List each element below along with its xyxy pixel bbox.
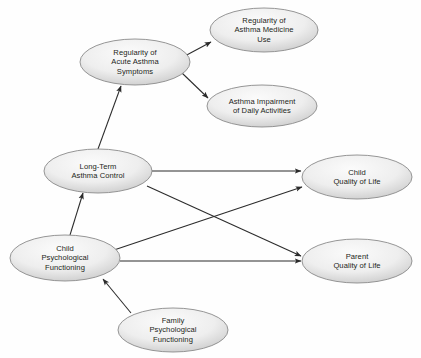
edge-acute-to-impairment [182, 73, 208, 98]
node-child_qol[interactable] [302, 155, 412, 199]
node-parent_qol[interactable] [302, 239, 412, 283]
node-daily_impairment[interactable] [207, 85, 317, 127]
nodes-layer [10, 8, 412, 352]
edge-control-to-acute [98, 86, 121, 149]
path-diagram: Regularity of Acute Asthma SymptomsRegul… [0, 0, 421, 358]
edge-familypsych-to-childpsych [103, 279, 131, 313]
edge-childpsych-to-control [70, 193, 83, 235]
node-asthma_control[interactable] [44, 149, 152, 193]
diagram-canvas [0, 0, 421, 358]
node-medicine_use[interactable] [210, 8, 318, 52]
node-child_psych[interactable] [10, 235, 120, 281]
edge-control-to-parentqol [147, 186, 301, 256]
edge-childpsych-to-childqol [114, 187, 302, 250]
node-acute_symptoms[interactable] [80, 39, 190, 85]
node-family_psych[interactable] [118, 308, 228, 352]
